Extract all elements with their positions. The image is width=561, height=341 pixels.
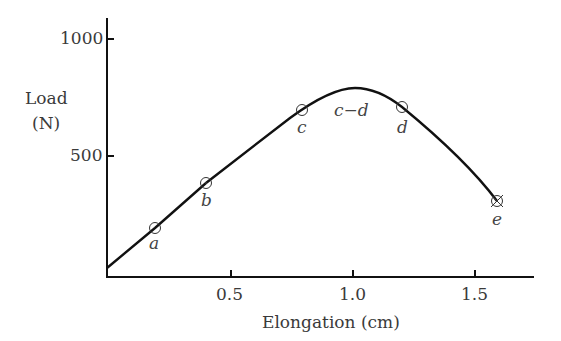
point-b-dot	[205, 182, 207, 184]
y-tick-label-500: 500	[70, 145, 102, 165]
point-label-a: a	[149, 233, 159, 253]
y-tick-label-1000: 1000	[60, 28, 103, 48]
x-tick-label-1.5: 1.5	[461, 284, 488, 304]
y-axis-label-line1: Load	[25, 88, 68, 108]
y-axis-label-line2: (N)	[32, 113, 60, 133]
point-label-e: e	[492, 209, 502, 229]
point-label-b: b	[201, 190, 212, 210]
point-label-c: c	[297, 117, 307, 137]
x-axis-label: Elongation (cm)	[262, 312, 400, 332]
x-tick-label-1.0: 1.0	[339, 284, 366, 304]
point-label-d: d	[397, 117, 408, 137]
point-label-c-d: c−d	[334, 100, 369, 120]
x-tick-label-0.5: 0.5	[216, 284, 243, 304]
